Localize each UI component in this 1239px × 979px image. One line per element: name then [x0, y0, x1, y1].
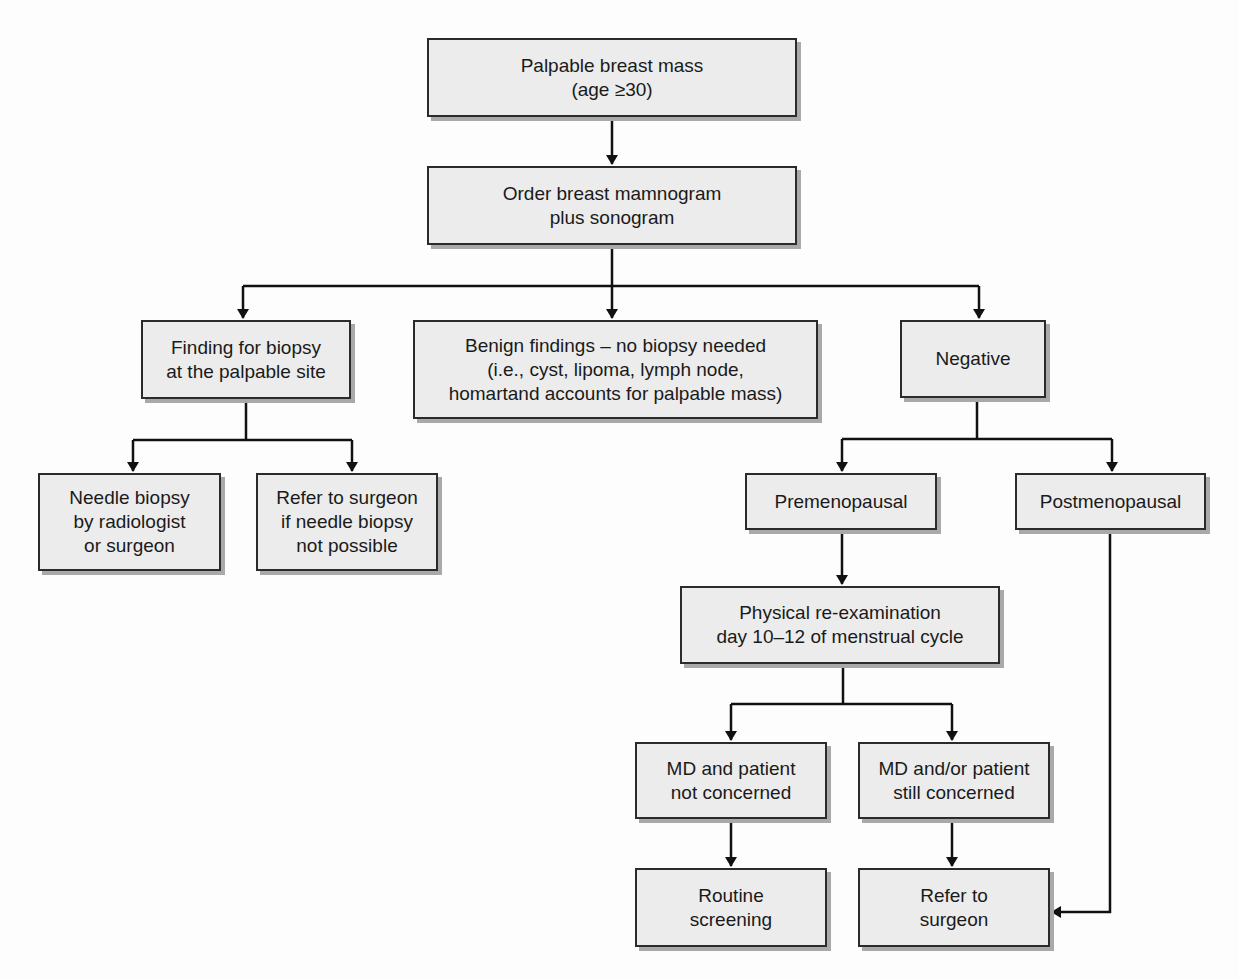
node-text: Postmenopausal: [1040, 490, 1182, 514]
node-text: Order breast mamnogram: [503, 182, 722, 206]
node-refer-if-needle-not-possible: Refer to surgeon if needle biopsy not po…: [256, 473, 438, 571]
node-text: still concerned: [893, 781, 1014, 805]
node-finding-for-biopsy: Finding for biopsy at the palpable site: [141, 320, 351, 399]
node-text: homartand accounts for palpable mass): [449, 382, 783, 406]
node-physical-reexamination: Physical re-examination day 10–12 of men…: [680, 586, 1000, 664]
node-postmenopausal: Postmenopausal: [1015, 473, 1206, 530]
node-text: screening: [690, 908, 772, 932]
node-text: Benign findings – no biopsy needed: [465, 334, 766, 358]
flowchart-canvas: Palpable breast mass (age ≥30) Order bre…: [0, 0, 1239, 979]
node-text: Finding for biopsy: [171, 336, 321, 360]
node-text: (i.e., cyst, lipoma, lymph node,: [487, 358, 744, 382]
node-not-concerned: MD and patient not concerned: [635, 742, 827, 819]
node-text: if needle biopsy: [281, 510, 413, 534]
node-benign-findings: Benign findings – no biopsy needed (i.e.…: [413, 320, 818, 419]
node-text: Premenopausal: [774, 490, 907, 514]
node-text: Needle biopsy: [69, 486, 189, 510]
node-text: at the palpable site: [166, 360, 326, 384]
node-text: not possible: [296, 534, 397, 558]
node-text: by radiologist: [74, 510, 186, 534]
node-text: day 10–12 of menstrual cycle: [716, 625, 963, 649]
node-text: Refer to: [920, 884, 988, 908]
node-text: not concerned: [671, 781, 791, 805]
node-order-mammogram: Order breast mamnogram plus sonogram: [427, 166, 797, 245]
node-premenopausal: Premenopausal: [745, 473, 937, 530]
node-negative: Negative: [900, 320, 1046, 398]
node-needle-biopsy: Needle biopsy by radiologist or surgeon: [38, 473, 221, 571]
edge-postmeno-to-refer-surgeon: [1052, 530, 1110, 912]
node-text: Physical re-examination: [739, 601, 941, 625]
node-refer-to-surgeon: Refer to surgeon: [858, 868, 1050, 947]
node-text: Negative: [936, 347, 1011, 371]
node-still-concerned: MD and/or patient still concerned: [858, 742, 1050, 819]
node-routine-screening: Routine screening: [635, 868, 827, 947]
node-text: surgeon: [920, 908, 989, 932]
node-text: plus sonogram: [550, 206, 675, 230]
node-text: or surgeon: [84, 534, 175, 558]
node-text: Refer to surgeon: [276, 486, 418, 510]
node-palpable-breast-mass: Palpable breast mass (age ≥30): [427, 38, 797, 117]
node-text: MD and patient: [667, 757, 796, 781]
node-text: (age ≥30): [571, 78, 652, 102]
node-text: Routine: [698, 884, 764, 908]
node-text: Palpable breast mass: [521, 54, 704, 78]
node-text: MD and/or patient: [878, 757, 1029, 781]
